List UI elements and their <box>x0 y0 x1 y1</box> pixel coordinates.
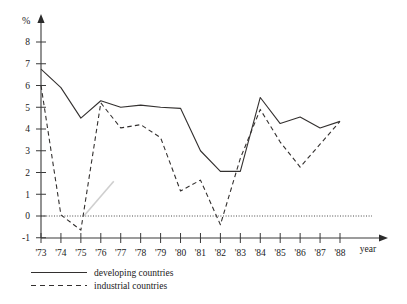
x-axis <box>41 234 388 241</box>
annotation-layer <box>84 181 114 216</box>
x-tick-label: '75 <box>75 248 86 258</box>
x-tick-label: '88 <box>334 248 345 258</box>
x-tick-label: '83 <box>235 248 246 258</box>
y-tick-label: 1 <box>25 190 30 200</box>
line-chart-canvas: -1012345678 '73'74'75'76'77'78'79'80'81'… <box>0 0 407 304</box>
x-tick-label: '79 <box>155 248 166 258</box>
chart-figure: -1012345678 '73'74'75'76'77'78'79'80'81'… <box>0 0 407 304</box>
x-tick-label: '82 <box>215 248 226 258</box>
x-tick-label: '73 <box>35 248 46 258</box>
x-tick-label: '77 <box>115 248 126 258</box>
x-tick-label: '81 <box>195 248 206 258</box>
y-axis-arrowhead <box>37 14 44 23</box>
y-tick-label: 7 <box>25 59 30 69</box>
chart-legend: developing countries industrial countrie… <box>31 268 174 291</box>
x-tick-label: '84 <box>255 248 266 258</box>
y-tick-label: 4 <box>25 124 30 134</box>
faint-artifact-line <box>84 181 114 216</box>
x-tick-label: '80 <box>175 248 186 258</box>
y-tick-label: 5 <box>25 103 30 113</box>
x-axis-unit-label: year <box>360 244 377 254</box>
y-axis-unit-label: % <box>22 15 30 26</box>
y-tick-label: 0 <box>25 211 30 221</box>
x-axis-arrowhead <box>379 234 388 241</box>
y-tick-label: 8 <box>25 37 30 47</box>
series-line-industrial-countries <box>41 86 340 231</box>
y-tick-label: 2 <box>25 168 30 178</box>
x-axis-tick-labels: '73'74'75'76'77'78'79'80'81'82'83'84'85'… <box>35 248 345 258</box>
x-tick-label: '86 <box>295 248 306 258</box>
legend-label-industrial-countries: industrial countries <box>94 281 167 291</box>
y-tick-label: 6 <box>25 81 30 91</box>
x-tick-label: '74 <box>55 248 66 258</box>
series-line-developing-countries <box>41 69 340 171</box>
y-axis <box>37 14 44 238</box>
x-tick-label: '78 <box>135 248 146 258</box>
y-axis-tick-labels: -1012345678 <box>22 37 30 243</box>
legend-label-developing-countries: developing countries <box>94 268 174 278</box>
y-tick-label: 3 <box>25 146 30 156</box>
x-tick-label: '76 <box>95 248 106 258</box>
y-tick-label: -1 <box>22 233 30 243</box>
data-series-layer <box>41 69 340 230</box>
x-tick-label: '85 <box>275 248 286 258</box>
x-tick-label: '87 <box>314 248 325 258</box>
